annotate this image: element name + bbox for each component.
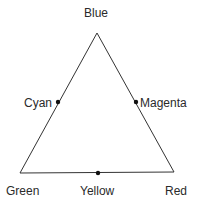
color-triangle-diagram: Blue Cyan Magenta Green Yellow Red — [0, 0, 199, 212]
label-blue: Blue — [84, 6, 108, 20]
yellow-point — [96, 171, 100, 175]
label-green: Green — [6, 184, 39, 198]
magenta-point — [134, 100, 138, 104]
cyan-point — [56, 100, 60, 104]
label-cyan: Cyan — [24, 96, 52, 110]
label-red: Red — [165, 184, 187, 198]
label-magenta: Magenta — [140, 96, 187, 110]
label-yellow: Yellow — [80, 184, 114, 198]
